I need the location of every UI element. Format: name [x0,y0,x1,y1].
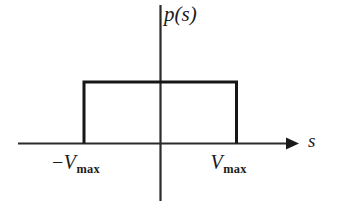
variable-symbol: V [211,151,223,173]
y-axis-label: p(s) [164,4,197,25]
x-tick-label-negative-vmax: −Vmax [52,152,100,175]
subscript-max: max [77,162,100,176]
x-axis-label: s [308,131,315,150]
variable-symbol: V [64,151,76,173]
subscript-max: max [223,162,246,176]
uniform-pdf-plot [0,0,340,201]
minus-sign: − [52,151,63,173]
figure-canvas: p(s) s −Vmax Vmax [0,0,340,201]
x-axis-arrowhead [286,138,299,150]
x-tick-label-positive-vmax: Vmax [210,152,247,175]
